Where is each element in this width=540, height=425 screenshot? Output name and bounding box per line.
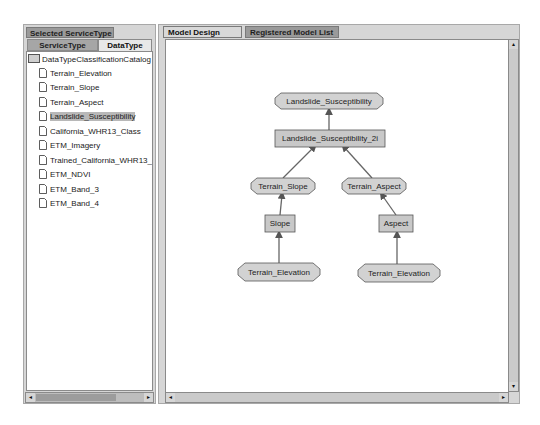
tab-datatype[interactable]: DataType [98,39,152,51]
svg-text:Slope: Slope [270,219,291,228]
edge-n3-n2 [283,147,314,178]
document-icon [39,140,47,150]
model-design-canvas[interactable]: Landslide_Susceptibility Landslide_Susce… [165,39,509,393]
tree-root-datatypeclassificationcatalog[interactable]: DataTypeClassificationCatalog [28,53,151,66]
tab-model-design-panel[interactable]: Model Design Panel [163,26,242,38]
document-icon [39,97,47,107]
tree-item-landslide-susceptibility[interactable]: Landslide_Susceptibility [39,110,135,123]
tree-item-terrain-slope[interactable]: Terrain_Slope [39,81,99,94]
node-terrain-elevation-left[interactable]: Terrain_Elevation [238,263,320,281]
tab-servicetype[interactable]: ServiceType [27,39,98,51]
svg-text:Terrain_Aspect: Terrain_Aspect [347,182,401,191]
document-icon [39,68,47,78]
tree-item-label: ETM_Band_4 [50,199,99,208]
tree-horizontal-scrollbar[interactable]: ◂ ▸ [25,392,154,403]
panel-title-selected-servicetype: Selected ServiceType [26,27,114,38]
tree-item-label: Landslide_Susceptibility [50,112,135,121]
scroll-left-button[interactable]: ◂ [166,393,175,402]
svg-text:Terrain_Elevation: Terrain_Elevation [368,269,430,278]
svg-text:Terrain_Slope: Terrain_Slope [258,182,308,191]
scrollbar-thumb[interactable] [36,394,116,401]
tree-item-terrain-aspect[interactable]: Terrain_Aspect [39,96,103,109]
folder-icon [28,54,40,63]
tree-item-etm-band-4[interactable]: ETM_Band_4 [39,197,99,210]
tree-item-label: ETM_Band_3 [50,185,99,194]
svg-text:Aspect: Aspect [384,219,409,228]
svg-text:Terrain_Elevation: Terrain_Elevation [248,268,310,277]
tree-item-label: Terrain_Slope [50,83,99,92]
edge-n5-n3 [280,195,282,215]
tree-item-trained-california-whr13[interactable]: Trained_California_WHR13_P [39,154,153,167]
node-terrain-elevation-right[interactable]: Terrain_Elevation [358,264,440,282]
edge-n6-n4 [382,195,396,215]
document-icon [39,198,47,208]
tree-item-etm-imagery[interactable]: ETM_Imagery [39,139,100,152]
canvas-horizontal-scrollbar[interactable]: ◂ ▸ [165,392,509,403]
tree-item-etm-ndvi[interactable]: ETM_NDVI [39,168,90,181]
tree-item-terrain-elevation[interactable]: Terrain_Elevation [39,67,112,80]
tree-item-label: California_WHR13_Class [50,127,141,136]
document-icon [39,111,47,121]
tree-item-label: Trained_California_WHR13_P [50,156,153,165]
tree-item-label: ETM_Imagery [50,141,100,150]
tab-registered-model-list[interactable]: Registered Model List [245,26,339,38]
tree-item-label: Terrain_Elevation [50,69,112,78]
node-terrain-aspect[interactable]: Terrain_Aspect [342,178,406,194]
scroll-right-button[interactable]: ▸ [144,393,153,402]
node-landslide-susceptibility-2i[interactable]: Landslide_Susceptibility_2i [275,130,385,147]
svg-text:Landslide_Susceptibility_2i: Landslide_Susceptibility_2i [282,134,378,143]
tree-item-california-whr13-class[interactable]: California_WHR13_Class [39,125,141,138]
document-icon [39,126,47,136]
node-slope[interactable]: Slope [265,215,295,232]
model-diagram: Landslide_Susceptibility Landslide_Susce… [166,40,508,392]
scroll-left-button[interactable]: ◂ [26,393,35,402]
node-landslide-susceptibility[interactable]: Landslide_Susceptibility [275,93,383,109]
tree-item-label: Terrain_Aspect [50,98,103,107]
svg-text:Landslide_Susceptibility: Landslide_Susceptibility [286,97,371,106]
edge-n4-n2 [344,147,372,178]
document-icon [39,82,47,92]
scroll-right-button[interactable]: ▸ [499,393,508,402]
service-type-panel: Selected ServiceType ServiceType DataTyp… [23,24,156,404]
tree-item-label: ETM_NDVI [50,170,90,179]
tree-item-etm-band-3[interactable]: ETM_Band_3 [39,183,99,196]
document-icon [39,155,47,165]
datatype-tree: DataTypeClassificationCatalog Terrain_El… [26,51,153,391]
node-terrain-slope[interactable]: Terrain_Slope [251,178,315,194]
scroll-down-button[interactable]: ▾ [509,382,518,391]
canvas-vertical-scrollbar[interactable]: ▴ ▾ [508,39,519,392]
document-icon [39,184,47,194]
document-icon [39,169,47,179]
model-panel: Model Design Panel Registered Model List [158,24,520,404]
node-aspect[interactable]: Aspect [379,215,413,232]
tree-root-label: DataTypeClassificationCatalog [42,55,151,64]
scroll-up-button[interactable]: ▴ [509,40,518,49]
